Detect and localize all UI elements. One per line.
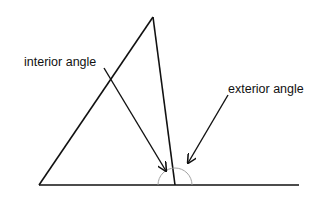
triangle-left-side [39, 17, 153, 185]
angle-diagram: interior angle exterior angle [0, 0, 327, 199]
exterior-angle-label: exterior angle [228, 82, 304, 96]
interior-angle-arrow [104, 68, 166, 171]
triangle-right-side [153, 17, 175, 185]
exterior-angle-arrow [188, 95, 228, 163]
interior-angle-label: interior angle [24, 55, 96, 69]
